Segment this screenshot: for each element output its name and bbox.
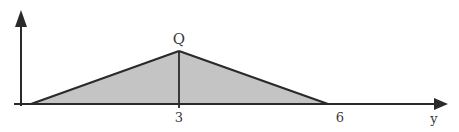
diagram-canvas: Q 3 6 y <box>0 0 459 132</box>
axis-label-y: y <box>429 111 438 126</box>
triangle-diagram: Q 3 6 y <box>0 0 459 132</box>
tick-label-3: 3 <box>175 110 183 125</box>
tick-label-6: 6 <box>336 110 344 125</box>
apex-label: Q <box>173 30 185 48</box>
horizontal-axis-arrow-icon <box>434 98 448 110</box>
vertical-axis-arrow-icon <box>15 10 27 27</box>
